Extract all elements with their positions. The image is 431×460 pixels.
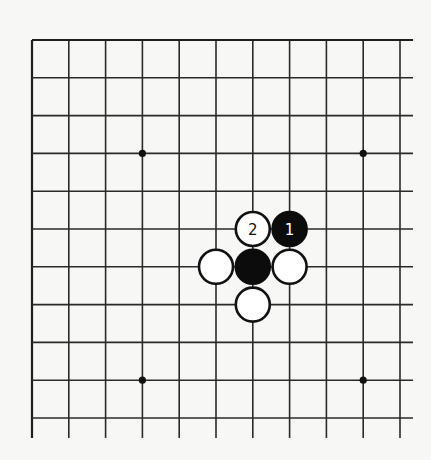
white-stone bbox=[199, 250, 233, 284]
go-board-diagram: 21 bbox=[0, 0, 431, 460]
star-point-icon bbox=[360, 150, 367, 157]
board-grid bbox=[32, 40, 413, 438]
star-point-icon bbox=[139, 150, 146, 157]
white-stone-icon bbox=[199, 250, 233, 284]
white-stone-icon bbox=[273, 250, 307, 284]
go-board: 21 bbox=[0, 0, 431, 460]
white-stone-icon bbox=[236, 288, 270, 322]
white-stone-2: 2 bbox=[236, 212, 270, 246]
star-point-icon bbox=[139, 377, 146, 384]
move-number-label: 1 bbox=[285, 221, 295, 239]
white-stone bbox=[273, 250, 307, 284]
star-point-icon bbox=[360, 377, 367, 384]
black-stone-icon bbox=[236, 250, 270, 284]
white-stone bbox=[236, 288, 270, 322]
black-stone bbox=[236, 250, 270, 284]
black-stone-1: 1 bbox=[273, 212, 307, 246]
move-number-label: 2 bbox=[248, 221, 258, 239]
